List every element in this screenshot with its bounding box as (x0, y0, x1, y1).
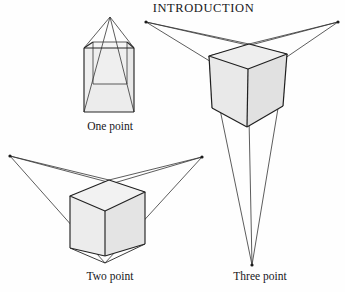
two-point-left-vp-marker (8, 154, 11, 157)
two-point-figure (8, 154, 203, 263)
caption-three-point: Three point (205, 270, 315, 282)
perspective-diagram (0, 0, 345, 292)
three-point-figure (144, 20, 339, 266)
two-point-right-ray-a (109, 157, 202, 180)
one-point-figure (84, 17, 134, 112)
two-point-right-vp-marker (200, 155, 203, 158)
three-point-bottom-vp-marker (250, 263, 253, 266)
three-point-right-vp-marker (336, 20, 339, 23)
three-point-left-vp-marker (144, 20, 147, 23)
figure-page: INTRODUCTION (0, 0, 345, 292)
caption-one-point: One point (60, 120, 160, 132)
caption-two-point: Two point (60, 270, 160, 282)
